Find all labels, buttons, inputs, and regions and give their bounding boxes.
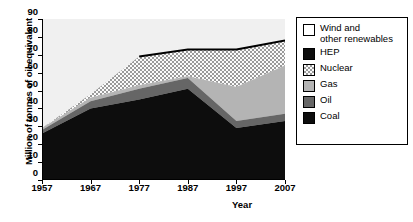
x-tick-label: 1987 <box>165 183 211 193</box>
legend-item-label: Oil <box>320 95 332 106</box>
y-tick-label: 20 <box>14 132 38 142</box>
y-tick-label: 30 <box>14 115 38 125</box>
y-tick-label: 10 <box>14 150 38 160</box>
stacked-area-chart: Million of tonnes of oil equivalent 0102… <box>0 0 413 222</box>
x-tick-label: 1957 <box>19 183 65 193</box>
plot-svg <box>42 19 285 180</box>
hep-swatch-icon <box>303 48 315 60</box>
x-tick-label: 1997 <box>213 183 259 193</box>
oil-swatch-icon <box>303 96 315 108</box>
x-tick-mark <box>91 180 92 184</box>
y-tick-label: 60 <box>14 61 38 71</box>
coal-swatch-icon <box>303 112 315 124</box>
x-tick-label: 1967 <box>68 183 114 193</box>
y-tick-label: 90 <box>14 7 38 17</box>
x-tick-mark <box>188 180 189 184</box>
y-tick-label: 50 <box>14 79 38 89</box>
legend-item-label: Gas <box>320 79 337 90</box>
legend-item[interactable]: Wind and other renewables <box>303 23 407 44</box>
chart-legend: Wind and other renewablesHEPNuclearGasOi… <box>296 17 408 145</box>
plot-area <box>42 19 285 180</box>
gas-swatch-icon <box>303 80 315 92</box>
legend-item-label: Coal <box>320 111 340 122</box>
x-axis-tick-labels: 195719671977198719972007 <box>0 183 300 199</box>
legend-item[interactable]: HEP <box>303 47 407 60</box>
series-areas <box>42 19 285 180</box>
x-tick-mark <box>42 180 43 184</box>
y-axis-tick-labels: 0102030405060708090 <box>14 12 38 187</box>
legend-item[interactable]: Gas <box>303 79 407 92</box>
legend-item[interactable]: Coal <box>303 111 407 124</box>
y-tick-label: 70 <box>14 43 38 53</box>
x-tick-mark <box>139 180 140 184</box>
legend-item-label: Wind and other renewables <box>320 23 393 44</box>
wind-swatch-icon <box>303 24 315 36</box>
legend-item-label: HEP <box>320 47 340 58</box>
y-tick-label: 40 <box>14 97 38 107</box>
x-tick-label: 1977 <box>116 183 162 193</box>
y-tick-label: 0 <box>14 168 38 178</box>
x-tick-label: 2007 <box>262 183 308 193</box>
legend-item-label: Nuclear <box>320 63 353 74</box>
legend-item[interactable]: Nuclear <box>303 63 407 76</box>
x-axis-title: Year <box>232 199 252 210</box>
x-tick-mark <box>236 180 237 184</box>
nuclear-swatch-icon <box>303 64 315 76</box>
legend-item[interactable]: Oil <box>303 95 407 108</box>
y-tick-label: 80 <box>14 25 38 35</box>
x-tick-mark <box>285 180 286 184</box>
